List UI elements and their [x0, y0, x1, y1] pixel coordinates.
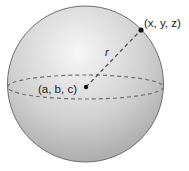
surface-point — [138, 27, 143, 32]
sphere-diagram: r (a, b, c) (x, y, z) — [0, 0, 189, 171]
center-point — [84, 85, 88, 89]
center-label: (a, b, c) — [38, 83, 77, 95]
surface-point-label: (x, y, z) — [144, 17, 181, 29]
